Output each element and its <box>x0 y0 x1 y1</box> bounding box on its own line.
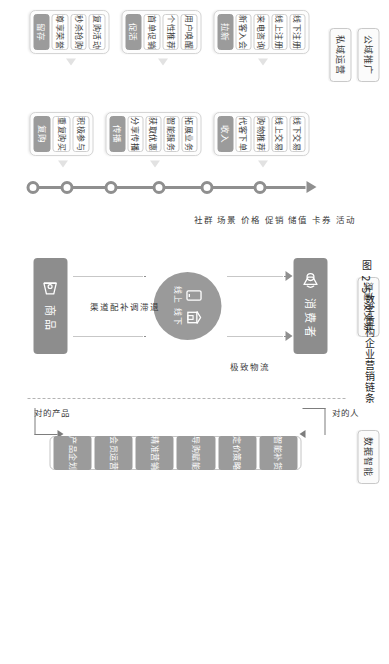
figure-frame: 公域推广 私域运营 渠道及交易 数据智能 线下注册 线上注册 来电咨询 新客入会… <box>0 0 389 664</box>
stage-pointer <box>258 59 268 66</box>
stage-item[interactable]: 复购活动 <box>89 14 106 50</box>
stage-head[interactable]: 拉新 <box>217 14 233 50</box>
data-intelligence-item[interactable]: 定价策略 <box>218 436 256 470</box>
stage-item[interactable]: 分享传播 <box>127 116 143 152</box>
data-intelligence-strip[interactable]: 智能补货 定价策略 导购赋能 精准营销 会员运营 产品企划 <box>49 436 301 470</box>
hub-online-label: 线上 <box>172 286 183 304</box>
stage-item[interactable]: 积极参与 <box>72 116 89 152</box>
stage-pointer <box>150 161 160 168</box>
stage-item[interactable]: 首单促销 <box>144 14 161 50</box>
stage-group-activate[interactable]: 用户唤醒 个性推荐 首单促销 促活 <box>121 10 201 54</box>
package-icon <box>41 279 59 299</box>
stage-pointer <box>58 161 68 168</box>
stage-item[interactable]: 线下交易 <box>289 116 305 152</box>
stage-head[interactable]: 留存 <box>33 14 50 50</box>
lane-separator <box>27 398 345 399</box>
figure-caption-number: 图 2-5 <box>358 260 373 295</box>
data-intelligence-item[interactable]: 智能补货 <box>259 436 297 470</box>
stage-item[interactable]: 购物推荐 <box>253 116 269 152</box>
journey-node <box>26 181 39 194</box>
stage-item[interactable]: 代客下单 <box>235 116 251 152</box>
right-product-connector <box>34 408 57 435</box>
stage-group-acquire[interactable]: 线下注册 线上注册 来电咨询 新客入会 拉新 <box>213 10 309 54</box>
stage-item[interactable]: 拓展业务 <box>181 116 197 152</box>
stage-group-repurchase[interactable]: 积极参与 重复购买 复购 <box>29 112 93 156</box>
stage-item[interactable]: 秒杀抢购 <box>70 14 87 50</box>
journey-node <box>152 181 165 194</box>
stage-pointer <box>66 59 76 66</box>
lane-label: 私域运营 <box>334 35 347 75</box>
stage-head[interactable]: 促活 <box>125 14 142 50</box>
stage-item[interactable]: 个性推荐 <box>162 14 179 50</box>
stage-group-spread[interactable]: 拓展业务 智能服务 获取优惠 分享传播 传播 <box>105 112 201 156</box>
stage-group-retain[interactable]: 复购活动 秒杀抢购 尊享荣誉 留存 <box>29 10 109 54</box>
diagram-canvas: 公域推广 私域运营 渠道及交易 数据智能 线下注册 线上注册 来电咨询 新客入会… <box>0 0 389 664</box>
stage-group-revenue[interactable]: 线下交易 线上交易 购物推荐 代客下单 收入 <box>213 112 309 156</box>
stage-item[interactable]: 智能服务 <box>163 116 179 152</box>
data-intelligence-item[interactable]: 导购赋能 <box>176 436 214 470</box>
right-person-label: 对的人 <box>331 406 358 418</box>
flow-line-left <box>227 276 285 277</box>
data-intelligence-item[interactable]: 会员运营 <box>94 436 132 470</box>
consumer-label: 消费者 <box>302 298 318 340</box>
logistics-label: 极致物流 <box>229 360 269 372</box>
stage-item[interactable]: 重复购买 <box>52 116 69 152</box>
mobile-icon <box>185 288 202 303</box>
flow-line-left-lower <box>73 276 145 277</box>
journey-node <box>200 181 213 194</box>
figure-caption: 图 2-5 数字重构企业营销链条 <box>358 0 379 664</box>
hub-offline[interactable]: 线下 <box>172 308 202 326</box>
online-offline-hub[interactable]: 线上 线下 <box>153 272 221 340</box>
stage-item[interactable]: 尊享荣誉 <box>52 14 69 50</box>
flow-line-right <box>227 336 285 337</box>
product-label: 商品 <box>42 305 58 333</box>
stage-item[interactable]: 新客入会 <box>235 14 251 50</box>
flow-arrow-left <box>285 271 292 281</box>
stage-item[interactable]: 用户唤醒 <box>181 14 198 50</box>
flow-line-right-lower <box>73 336 145 337</box>
megaphone-icon <box>301 272 319 292</box>
consumer-block[interactable]: 消费者 <box>293 258 327 354</box>
stage-pointer <box>158 59 168 66</box>
lane-tag-private-domain: 私域运营 <box>329 28 351 82</box>
data-intelligence-item[interactable]: 精准营销 <box>135 436 173 470</box>
journey-node <box>60 181 73 194</box>
stage-item[interactable]: 线上交易 <box>271 116 287 152</box>
stage-item[interactable]: 来电咨询 <box>253 14 269 50</box>
store-icon <box>185 309 202 326</box>
product-block[interactable]: 商品 <box>33 258 67 354</box>
stage-head[interactable]: 传播 <box>109 116 125 152</box>
stage-item[interactable]: 线上注册 <box>271 14 287 50</box>
stage-pointer <box>258 161 268 168</box>
journey-spine-arrow <box>306 181 316 193</box>
stage-item[interactable]: 获取优惠 <box>145 116 161 152</box>
flow-arrow-right <box>285 331 292 341</box>
stage-item[interactable]: 线下注册 <box>289 14 305 50</box>
journey-node <box>104 181 117 194</box>
marketing-levers-label: 社群 场景 价格 促销 储值 卡券 活动 <box>193 213 355 225</box>
stage-head[interactable]: 收入 <box>217 116 233 152</box>
hub-offline-label: 线下 <box>172 308 183 326</box>
stage-head[interactable]: 复购 <box>33 116 50 152</box>
figure-caption-title: 数字重构企业营销链条 <box>361 294 376 404</box>
journey-node <box>253 181 266 194</box>
channel-flow-label: 渠道配补调滞退 <box>89 300 159 312</box>
hub-online[interactable]: 线上 <box>172 286 202 304</box>
data-intelligence-item[interactable]: 产品企划 <box>53 436 91 470</box>
